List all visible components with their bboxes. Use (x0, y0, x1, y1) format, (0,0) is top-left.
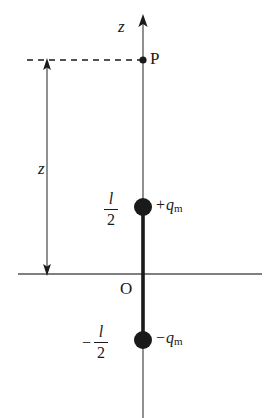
negative-pole-position-label: − l 2 (82, 324, 108, 361)
charge-symbol: q (166, 329, 174, 346)
plus-sign: + (156, 196, 165, 213)
fraction-denominator: 2 (94, 344, 108, 361)
charge-symbol: q (166, 196, 174, 213)
origin-label: O (120, 280, 132, 297)
negative-charge-dot (134, 331, 152, 349)
fraction-bar (94, 342, 108, 343)
z-axis-label: z (118, 18, 125, 35)
positive-charge-dot (134, 198, 152, 216)
distance-z-label: z (38, 160, 45, 177)
minus-sign: − (156, 329, 165, 346)
point-p-label: P (150, 50, 159, 67)
positive-charge-label: +qm (156, 197, 183, 214)
fraction-bar (104, 209, 118, 210)
charge-subscript: m (174, 202, 183, 214)
positive-pole-position-label: l 2 (104, 191, 118, 228)
fraction-denominator: 2 (104, 211, 118, 228)
fraction-numerator: l (104, 191, 118, 208)
fraction-l-over-2-negative: l 2 (94, 324, 108, 361)
negative-charge-label: −qm (156, 330, 183, 347)
fraction-l-over-2: l 2 (104, 191, 118, 228)
fraction-numerator: l (94, 324, 108, 341)
charge-subscript: m (174, 335, 183, 347)
point-p-dot (139, 56, 146, 63)
magnetic-dipole-figure: z P z O l 2 − l 2 +qm −qm (0, 0, 276, 418)
minus-sign: − (82, 334, 91, 352)
figure-canvas (0, 0, 276, 418)
